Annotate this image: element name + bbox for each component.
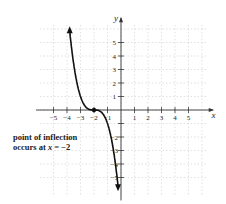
curve-arrow-up-icon <box>67 26 73 33</box>
inflection-point <box>92 108 96 112</box>
y-tick-label: 4 <box>113 53 117 61</box>
y-tick-label: 3 <box>113 66 117 74</box>
x-tick-label: 3 <box>160 114 164 122</box>
inflection-annotation: point of inflection occurs at x = −2 <box>13 132 77 152</box>
y-axis-label: y <box>113 13 118 23</box>
y-tick-label: 1 <box>113 93 117 101</box>
annotation-line-2: occurs at x = −2 <box>13 142 77 152</box>
x-tick-label: 2 <box>146 114 150 122</box>
x-tick-label: 5 <box>187 114 191 122</box>
x-tick-label: −4 <box>63 114 71 122</box>
curve-arrow-down-icon <box>115 184 121 191</box>
x-tick-label: −3 <box>77 114 85 122</box>
x-tick-label: −5 <box>50 114 58 122</box>
x-tick-label: 1 <box>133 114 137 122</box>
x-axis-label: x <box>210 110 215 120</box>
graph: xy−5−4−3−2−11234512345−2−3−4−5 <box>0 0 226 204</box>
x-tick-label: −2 <box>90 114 98 122</box>
y-tick-label: 5 <box>113 39 117 47</box>
y-tick-label: 2 <box>113 80 117 88</box>
annotation-line-1: point of inflection <box>13 132 77 142</box>
x-tick-label: 4 <box>173 114 177 122</box>
y-axis-arrow-icon <box>119 17 123 22</box>
